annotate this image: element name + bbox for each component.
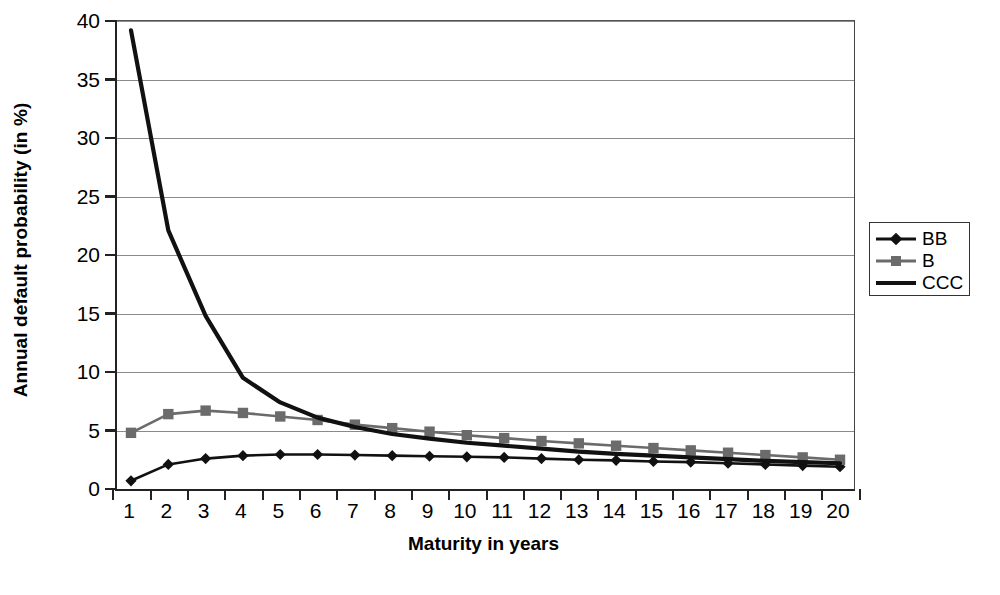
y-axis-tick-label: 15 xyxy=(52,302,100,323)
data-point-marker xyxy=(536,436,546,446)
x-axis-tick-label: 5 xyxy=(272,500,284,521)
y-axis-tick-label: 20 xyxy=(52,244,100,265)
y-axis-tick-label: 5 xyxy=(52,419,100,440)
x-axis-tick-label: 12 xyxy=(528,500,551,521)
data-point-marker xyxy=(349,449,360,460)
x-axis-tick-label: 20 xyxy=(826,500,849,521)
series-ccc xyxy=(131,30,840,463)
y-axis-tick-label: 30 xyxy=(52,127,100,148)
x-axis-tick-label: 18 xyxy=(752,500,775,521)
legend-item-b: B xyxy=(876,250,969,271)
y-axis-tick xyxy=(105,137,117,139)
x-axis-tick-label: 10 xyxy=(453,500,476,521)
chart-figure: Annual default probability (in %) 051015… xyxy=(0,0,1000,595)
x-axis-tick xyxy=(523,489,525,500)
x-axis-tick xyxy=(821,489,823,500)
legend-item-ccc: CCC xyxy=(876,272,969,293)
legend-label-bb: BB xyxy=(922,229,947,248)
data-point-marker xyxy=(574,438,584,448)
x-axis-tick xyxy=(150,489,152,500)
x-axis-tick xyxy=(486,489,488,500)
data-point-marker xyxy=(573,454,584,465)
data-point-marker xyxy=(312,449,323,460)
data-point-marker xyxy=(461,451,472,462)
x-axis-tick-label: 16 xyxy=(677,500,700,521)
y-axis-tick xyxy=(105,195,117,197)
legend-item-bb: BB xyxy=(876,228,969,249)
y-axis-tick-label: 10 xyxy=(52,361,100,382)
y-axis-tick-label: 40 xyxy=(52,10,100,31)
series-line-b xyxy=(131,411,840,460)
data-point-marker xyxy=(126,428,136,438)
y-axis-tick-label: 35 xyxy=(52,68,100,89)
data-point-marker xyxy=(648,443,658,453)
x-axis-tick xyxy=(635,489,637,500)
square-marker-icon xyxy=(891,256,901,266)
y-axis-tick xyxy=(105,429,117,431)
legend-label-ccc: CCC xyxy=(922,273,963,292)
series-line-ccc xyxy=(131,30,840,463)
data-point-marker xyxy=(275,449,286,460)
data-point-marker xyxy=(200,453,211,464)
chart-legend: BB B CCC xyxy=(869,222,970,296)
x-axis-tick xyxy=(784,489,786,500)
x-axis-tick xyxy=(262,489,264,500)
legend-line-ccc xyxy=(876,280,916,285)
data-point-marker xyxy=(611,441,621,451)
x-axis-tick-label: 2 xyxy=(160,500,172,521)
data-point-marker xyxy=(238,408,248,418)
legend-key-b xyxy=(876,253,916,269)
data-point-marker xyxy=(686,445,696,455)
data-point-marker xyxy=(163,459,174,470)
x-axis-tick xyxy=(336,489,338,500)
series-canvas xyxy=(117,21,854,489)
x-axis-tick xyxy=(299,489,301,500)
x-axis-tick xyxy=(187,489,189,500)
x-axis-tick xyxy=(448,489,450,500)
x-axis-tick xyxy=(224,489,226,500)
x-axis-tick xyxy=(411,489,413,500)
data-point-marker xyxy=(499,452,510,463)
y-axis-tick-label: 0 xyxy=(52,478,100,499)
x-axis-tick xyxy=(374,489,376,500)
x-axis-tick-label: 19 xyxy=(789,500,812,521)
x-axis-tick-label: 7 xyxy=(347,500,359,521)
x-axis-tick xyxy=(597,489,599,500)
x-axis-tick xyxy=(709,489,711,500)
y-axis-tick xyxy=(105,371,117,373)
data-point-marker xyxy=(275,411,285,421)
data-point-marker xyxy=(424,426,434,436)
x-axis-tick xyxy=(747,489,749,500)
data-point-marker xyxy=(723,448,733,458)
y-axis-title-text: Annual default probability (in %) xyxy=(10,103,32,398)
y-axis-tick xyxy=(105,488,117,490)
y-axis-title: Annual default probability (in %) xyxy=(0,0,42,500)
x-axis-tick-label: 14 xyxy=(602,500,625,521)
y-axis-tick xyxy=(105,78,117,80)
x-axis-tick xyxy=(859,489,861,500)
plot-area xyxy=(115,20,855,491)
data-point-marker xyxy=(125,475,136,486)
x-axis-tick-labels: 1234567891011121314151617181920 xyxy=(115,500,852,532)
x-axis-tick-label: 9 xyxy=(422,500,434,521)
legend-key-ccc xyxy=(876,275,916,291)
data-point-marker xyxy=(200,405,210,415)
diamond-marker-icon xyxy=(890,232,903,245)
data-point-marker xyxy=(462,430,472,440)
legend-label-b: B xyxy=(922,251,935,270)
data-point-marker xyxy=(499,433,509,443)
x-axis-title: Maturity in years xyxy=(115,533,852,555)
y-axis-tick xyxy=(105,254,117,256)
x-axis-tick-label: 4 xyxy=(235,500,247,521)
data-point-marker xyxy=(424,451,435,462)
x-axis-tick-label: 15 xyxy=(640,500,663,521)
x-axis-tick-label: 6 xyxy=(310,500,322,521)
y-axis-tick-label: 25 xyxy=(52,185,100,206)
data-point-marker xyxy=(611,455,622,466)
x-axis-tick-label: 1 xyxy=(123,500,135,521)
data-point-marker xyxy=(237,450,248,461)
x-axis-tick-label: 3 xyxy=(198,500,210,521)
legend-key-bb xyxy=(876,231,916,247)
y-axis-tick xyxy=(105,312,117,314)
y-axis-tick xyxy=(105,20,117,22)
